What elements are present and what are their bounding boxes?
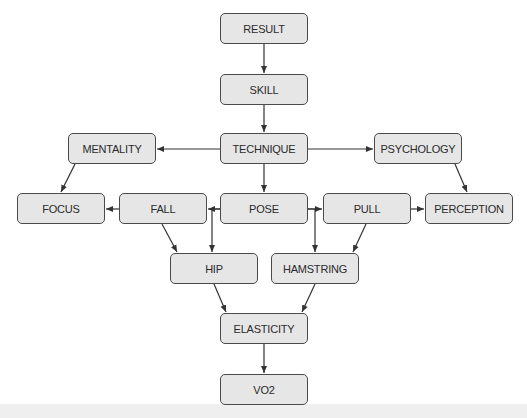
node-label: TECHNIQUE (233, 143, 296, 155)
node-label: PULL (354, 203, 381, 215)
node-label: HIP (205, 263, 223, 275)
edge-pull-hamstring (353, 224, 366, 252)
node-psychology: PSYCHOLOGY (374, 133, 462, 164)
node-label: POSE (249, 203, 279, 215)
edge-fall-hip (162, 224, 177, 252)
node-label: SKILL (250, 84, 279, 96)
node-pull: PULL (323, 193, 411, 224)
edge-hamstring-elasticity (302, 284, 315, 312)
edge-pose-hamstring (308, 209, 315, 252)
node-label: PSYCHOLOGY (380, 143, 455, 155)
node-mentality: MENTALITY (68, 133, 156, 164)
node-hip: HIP (170, 253, 258, 284)
node-label: HAMSTRING (283, 263, 347, 275)
node-vo2: VO2 (220, 374, 308, 405)
node-technique: TECHNIQUE (220, 133, 308, 164)
node-perception: PERCEPTION (425, 193, 513, 224)
node-elasticity: ELASTICITY (220, 313, 308, 344)
node-label: ELASTICITY (234, 323, 295, 335)
node-label: FOCUS (42, 203, 80, 215)
node-label: RESULT (243, 23, 284, 35)
node-label: VO2 (253, 384, 274, 396)
node-label: FALL (151, 203, 176, 215)
node-focus: FOCUS (17, 193, 105, 224)
node-label: MENTALITY (82, 143, 141, 155)
node-fall: FALL (119, 193, 207, 224)
edge-pose-hip (212, 209, 220, 252)
node-hamstring: HAMSTRING (271, 253, 359, 284)
node-skill: SKILL (220, 74, 308, 105)
node-pose: POSE (220, 193, 308, 224)
edge-mentality-focus (61, 164, 75, 192)
node-result: RESULT (220, 13, 308, 44)
edge-hip-elasticity (214, 284, 226, 312)
node-label: PERCEPTION (434, 203, 504, 215)
edge-psychology-perception (455, 164, 467, 192)
